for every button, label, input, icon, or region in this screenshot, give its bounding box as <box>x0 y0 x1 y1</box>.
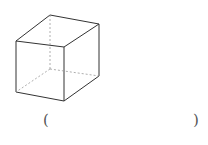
visible-edges <box>16 15 99 101</box>
cube-diagram <box>0 0 208 110</box>
right-parenthesis: ) <box>193 113 199 128</box>
left-parenthesis: ( <box>43 113 49 128</box>
hidden-edges <box>16 15 99 92</box>
